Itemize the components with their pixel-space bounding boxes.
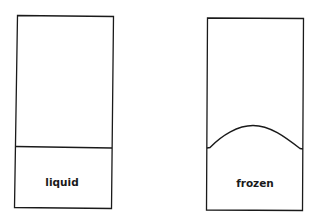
- frozen-label: frozen: [236, 177, 274, 189]
- frozen-domed-surface: [207, 126, 303, 150]
- liquid-surface-line: [16, 147, 113, 149]
- liquid-label: liquid: [45, 176, 78, 188]
- diagram-canvas: liquid frozen: [0, 0, 316, 219]
- frozen-container: frozen: [207, 18, 304, 211]
- liquid-container: liquid: [15, 16, 114, 209]
